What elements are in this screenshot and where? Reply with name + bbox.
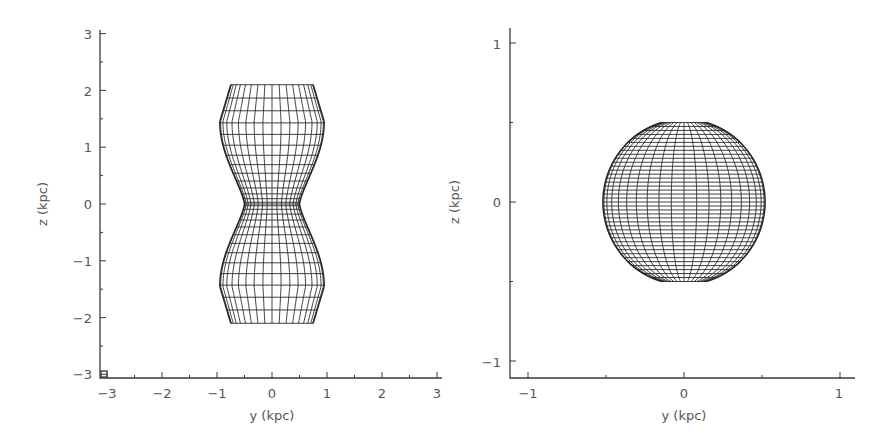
- right-y-axis-label: z (kpc): [447, 180, 462, 224]
- left-ytick-label: 3: [84, 27, 92, 42]
- left-xtick-label: −3: [97, 386, 116, 401]
- right-axes: [510, 28, 855, 378]
- left-xtick-label: 3: [433, 386, 441, 401]
- right-xtick-label: 0: [680, 386, 688, 401]
- left-ytick-label: 2: [84, 84, 92, 99]
- right-ticks: [510, 43, 840, 378]
- left-ytick-label: −1: [73, 254, 92, 269]
- left-xtick-label: 2: [378, 386, 386, 401]
- left-ytick-label: 1: [84, 140, 92, 155]
- sphere-wireframe: [603, 123, 765, 282]
- right-x-axis-label: y (kpc): [662, 408, 707, 423]
- figure: 3 2 1 0 −1 −2 −3 −3 −2 −1 0 1 2 3 y (kpc…: [0, 0, 885, 446]
- left-xtick-label: 1: [323, 386, 331, 401]
- left-xtick-label: −2: [152, 386, 171, 401]
- right-ytick-label: 0: [493, 195, 501, 210]
- right-xtick-label: 1: [835, 386, 843, 401]
- left-ytick-label: −2: [73, 311, 92, 326]
- right-xtick-label: −1: [518, 386, 537, 401]
- left-xtick-label: −1: [207, 386, 226, 401]
- left-ytick-label: −3: [73, 367, 92, 382]
- left-x-axis-label: y (kpc): [250, 408, 295, 423]
- right-ytick-label: −1: [482, 355, 501, 370]
- left-y-axis-label: z (kpc): [35, 182, 50, 226]
- right-panel: 1 0 −1 −1 0 1 y (kpc) z (kpc): [447, 28, 855, 423]
- left-xtick-label: 0: [268, 386, 276, 401]
- hourglass-wireframe: [220, 85, 324, 324]
- right-ytick-label: 1: [493, 37, 501, 52]
- left-panel: 3 2 1 0 −1 −2 −3 −3 −2 −1 0 1 2 3 y (kpc…: [35, 27, 442, 423]
- left-ytick-label: 0: [84, 197, 92, 212]
